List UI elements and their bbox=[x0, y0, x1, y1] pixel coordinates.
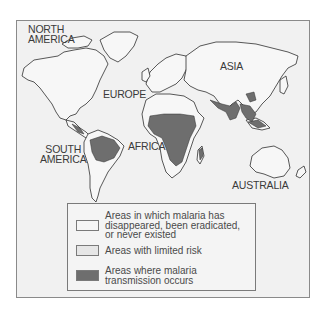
legend-item-limited-risk: Areas with limited risk bbox=[76, 245, 202, 256]
label-south-america: SOUTH AMERICA bbox=[40, 144, 86, 164]
map-legend: Areas in which malaria has disappeared, … bbox=[67, 203, 256, 291]
swatch-transmission bbox=[76, 270, 99, 281]
legend-item-no-malaria: Areas in which malaria has disappeared, … bbox=[76, 211, 240, 240]
asia-landmass bbox=[184, 42, 298, 114]
legend-label-limited-risk: Areas with limited risk bbox=[105, 246, 202, 256]
label-africa: AFRICA bbox=[128, 141, 165, 151]
greenland bbox=[100, 32, 138, 62]
legend-item-transmission: Areas where malaria transmission occurs bbox=[76, 266, 197, 285]
label-australia: AUSTRALIA bbox=[232, 180, 289, 190]
north-america-landmass bbox=[22, 48, 108, 120]
australia-landmass bbox=[250, 146, 290, 178]
legend-label-transmission: Areas where malaria transmission occurs bbox=[105, 266, 197, 285]
label-europe: EUROPE bbox=[103, 89, 146, 99]
label-asia: ASIA bbox=[220, 61, 243, 71]
swatch-limited-risk bbox=[76, 245, 99, 256]
swatch-no-malaria bbox=[76, 220, 99, 231]
europe-landmass bbox=[146, 54, 190, 92]
legend-label-no-malaria: Areas in which malaria has disappeared, … bbox=[105, 211, 240, 240]
label-north-america: NORTH AMERICA bbox=[28, 24, 74, 44]
